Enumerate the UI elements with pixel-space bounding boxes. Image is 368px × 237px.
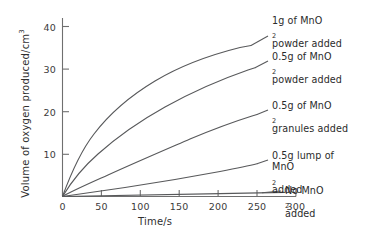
ann-no-mno2: No MnO2 added <box>285 185 324 219</box>
y-axis-title-exponent: 3 <box>18 29 26 34</box>
curve-05g-granules <box>63 115 258 197</box>
curve-05g-lump <box>63 164 258 197</box>
x-tick-label-200: 200 <box>209 201 228 212</box>
y-axis-title-text: Volume of oxygen produced/cm <box>20 34 31 198</box>
ann-no-mno2-line1: No MnO2 added <box>285 185 324 219</box>
ann-1g-powder-line1: 1g of MnO2 <box>272 15 342 38</box>
ann-05g-powder-line2: powder added <box>272 74 342 85</box>
leader-05g-lump <box>257 160 268 164</box>
ann-1g-powder-line2: powder added <box>272 38 342 49</box>
curve-05g-powder <box>63 68 256 197</box>
x-tick-label-250: 250 <box>248 201 267 212</box>
ann-1g-powder: 1g of MnO2 powder added <box>272 15 342 49</box>
ann-05g-powder-line1: 0.5g of MnO2 <box>272 51 342 74</box>
ann-05g-lump-text2: MnO <box>272 161 334 172</box>
curve-no-mno2 <box>63 192 286 196</box>
ann-05g-powder: 0.5g of MnO2 powder added <box>272 51 342 85</box>
ann-no-mno2-text-post: added <box>285 208 324 219</box>
x-axis-title: Time/s <box>138 216 172 227</box>
ann-no-mno2-text-pre: No MnO <box>285 185 324 196</box>
leader-05g-powder <box>255 61 268 68</box>
curve-1g-powder <box>63 46 252 197</box>
ann-05g-granules-text1: 0.5g of MnO <box>272 100 348 111</box>
x-tick-label-150: 150 <box>170 201 189 212</box>
x-tick-label-100: 100 <box>131 201 150 212</box>
leader-1g-powder <box>251 36 268 46</box>
leader-05g-granules <box>257 110 268 115</box>
y-tick-label-30: 30 <box>34 64 56 75</box>
y-tick-label-40: 40 <box>34 21 56 32</box>
ann-1g-powder-text1: 1g of MnO <box>272 15 342 26</box>
y-axis-title: Volume of oxygen produced/cm3 <box>20 29 31 199</box>
y-tick-label-10: 10 <box>34 149 56 160</box>
x-tick-label-50: 50 <box>95 201 108 212</box>
ann-05g-granules-line1: 0.5g of MnO2 <box>272 100 348 123</box>
ann-05g-granules-line2: granules added <box>272 123 348 134</box>
ann-05g-powder-text1: 0.5g of MnO <box>272 51 342 62</box>
x-tick-label-0: 0 <box>59 201 65 212</box>
y-tick-label-20: 20 <box>34 106 56 117</box>
ann-05g-granules: 0.5g of MnO2 granules added <box>272 100 348 134</box>
ann-05g-lump-line1: 0.5g lump of <box>272 150 334 161</box>
oxygen-production-chart: 40 30 20 10 0 50 100 150 200 250 300 Tim… <box>0 0 368 237</box>
x-axis-title-text: Time/s <box>138 216 172 227</box>
